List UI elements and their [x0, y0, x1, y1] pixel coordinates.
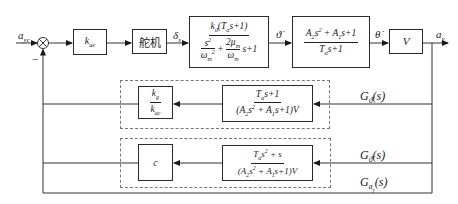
- label-G-ay: Gay(s): [360, 176, 388, 193]
- actuator-label: 舵机: [139, 34, 161, 50]
- block-gain-c: c: [138, 144, 173, 181]
- block-kac: kac: [73, 29, 107, 55]
- block-accel-tf: Tαs2 + s(A2s2 + A1s+1)V: [222, 145, 313, 181]
- label-G-pitch-rate: Gϑ̇(s): [360, 90, 385, 105]
- signal-path-rate: θ̇: [375, 29, 380, 40]
- signal-pitch-rate: ϑ̇: [276, 29, 281, 40]
- block-airframe-pitch: kϑ̇(Tαs+1) s2ωm2 + 2μmωm s+1: [189, 16, 269, 68]
- block-actuator: 舵机: [132, 29, 167, 54]
- signal-delta-s: δs: [173, 30, 181, 44]
- block-rate-tf: Tαs+1(A2s2 + A1s+1)V: [222, 85, 313, 122]
- input-label-ayc: ayc: [18, 30, 30, 44]
- block-airframe-path: A2s2 + A1s+1 Tαs+1: [292, 16, 370, 68]
- block-velocity: V: [389, 29, 423, 54]
- signal-output-ay: ay: [436, 29, 445, 43]
- label-G-pitch-accel: Gϑ̈(s): [360, 149, 385, 164]
- minus-sign: −: [32, 54, 38, 65]
- block-gain-kg-kac: kgkac: [138, 86, 173, 119]
